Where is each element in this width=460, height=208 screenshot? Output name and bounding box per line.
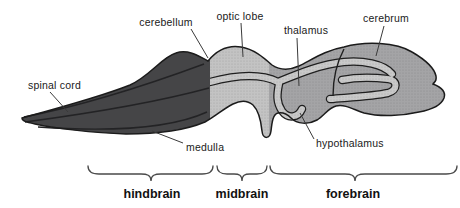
- brain-diagram: spinal cord cerebellum optic lobe thalam…: [0, 0, 460, 208]
- hindbrain-brace: [88, 166, 213, 181]
- cerebrum-label: cerebrum: [363, 12, 409, 24]
- hindbrain-region-label: hindbrain: [124, 187, 181, 201]
- midbrain-region-label: midbrain: [216, 187, 269, 201]
- thalamus-label: thalamus: [284, 24, 328, 36]
- hypothalamus-label: hypothalamus: [316, 137, 384, 149]
- optic-lobe-label: optic lobe: [217, 10, 264, 22]
- medulla-leader-line: [152, 131, 183, 143]
- medulla-label: medulla: [186, 141, 224, 153]
- forebrain-region-label: forebrain: [326, 187, 380, 201]
- spinal-cord-label: spinal cord: [28, 79, 81, 91]
- cerebellum-label: cerebellum: [139, 16, 192, 28]
- forebrain-brace: [270, 166, 457, 181]
- midbrain-brace: [217, 166, 267, 181]
- brain-diagram-svg: spinal cord cerebellum optic lobe thalam…: [0, 0, 460, 208]
